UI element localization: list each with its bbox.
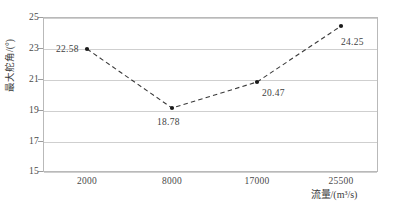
x-axis-title: 流量/(m³/s)	[276, 189, 392, 201]
y-tick-label-17: 17	[5, 136, 39, 146]
x-tick-label-2000: 2000	[52, 176, 122, 187]
gridline-23	[44, 49, 377, 50]
gridline-17	[44, 142, 377, 143]
y-tick-label-25: 25	[5, 12, 39, 22]
x-tick-label-25500: 25500	[306, 176, 376, 187]
x-tick-label-17000: 17000	[222, 176, 292, 187]
x-tick-label-8000: 8000	[137, 176, 207, 187]
gridline-25	[44, 18, 377, 19]
gridline-21	[44, 80, 377, 81]
gridline-15	[44, 172, 377, 173]
chart-container: 25 23 21 19 17 15 2000 8000 17000 25500 …	[0, 0, 396, 211]
y-tick-label-15: 15	[5, 166, 39, 176]
plot-area	[43, 17, 378, 172]
y-axis-title: 最大舵角/(°)	[5, 26, 16, 106]
y-tick-label-19: 19	[5, 105, 39, 115]
gridline-19	[44, 111, 377, 112]
